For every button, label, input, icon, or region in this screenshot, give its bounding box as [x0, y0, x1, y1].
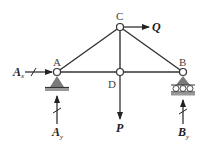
truss-diagram: A B C D Q P A x A y B y — [0, 0, 209, 149]
label-reaction-By-subscript: y — [185, 133, 190, 141]
reaction-Ax-arrow — [25, 68, 52, 76]
label-node-D: D — [108, 78, 116, 90]
label-load-Q: Q — [152, 20, 161, 34]
pin-support-A — [45, 76, 69, 91]
roller-support-B — [171, 76, 195, 96]
label-reaction-Ax-subscript: x — [20, 72, 25, 80]
joint-C — [117, 24, 124, 31]
label-node-A: A — [53, 56, 61, 68]
label-reaction-Ay: A — [51, 125, 60, 139]
label-reaction-By: B — [177, 125, 186, 139]
member-AC — [57, 27, 120, 72]
reaction-By-arrow — [179, 100, 187, 124]
truss-members — [57, 27, 183, 72]
label-reaction-Ay-subscript: y — [59, 133, 64, 141]
label-reaction-Ax: A — [12, 65, 21, 79]
reaction-Ay-arrow — [53, 96, 61, 124]
label-node-B: B — [179, 56, 186, 68]
label-node-C: C — [116, 10, 123, 22]
joint-D — [117, 69, 124, 76]
label-load-P: P — [116, 121, 124, 135]
joint-B — [180, 69, 187, 76]
joint-A — [54, 69, 61, 76]
